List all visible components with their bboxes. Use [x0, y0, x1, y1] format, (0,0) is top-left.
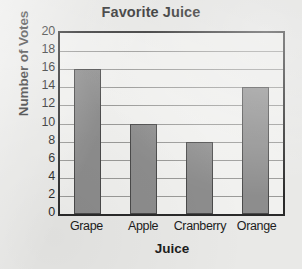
- bars-layer: [60, 33, 283, 214]
- bar-chart-figure: Favorite Juice Number of Votes 201816141…: [0, 0, 302, 269]
- y-tick-label: 8: [30, 133, 55, 146]
- x-axis-tick-labels: GrapeAppleCranberryOrange: [58, 219, 285, 233]
- y-tick-label: 0: [30, 206, 55, 219]
- y-tick-label: 20: [30, 25, 55, 38]
- chart-title: Favorite Juice: [0, 4, 302, 20]
- x-tick-label-apple: Apple: [115, 219, 172, 233]
- y-tick-label: 4: [30, 170, 55, 183]
- x-tick-label-orange: Orange: [228, 219, 285, 233]
- y-tick-label: 18: [30, 43, 55, 56]
- bar-slot: [60, 33, 116, 214]
- y-tick-label: 12: [30, 97, 55, 110]
- y-axis-tick-labels: 20181614121086420: [30, 31, 55, 216]
- bar[interactable]: [130, 124, 157, 215]
- bar-slot: [227, 33, 283, 214]
- y-tick-label: 10: [30, 115, 55, 128]
- bar[interactable]: [74, 69, 101, 214]
- x-tick-label-grape: Grape: [58, 219, 115, 233]
- y-axis-title: Number of Votes: [16, 0, 31, 144]
- x-tick-label-cranberry: Cranberry: [172, 219, 229, 233]
- y-tick-label: 6: [30, 151, 55, 164]
- x-axis-title: Juice: [58, 241, 286, 256]
- bar-slot: [172, 33, 228, 214]
- y-tick-label: 2: [30, 188, 55, 201]
- bar-slot: [116, 33, 172, 214]
- y-tick-label: 16: [30, 61, 55, 74]
- bar[interactable]: [242, 87, 269, 214]
- plot-area: [58, 31, 285, 216]
- y-tick-label: 14: [30, 79, 55, 92]
- bar[interactable]: [186, 142, 213, 214]
